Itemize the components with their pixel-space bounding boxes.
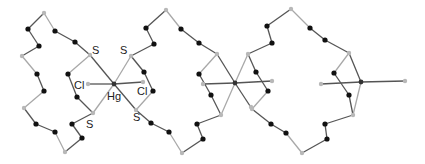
carbon-atom — [25, 26, 30, 31]
bond — [310, 28, 325, 40]
heteroatom — [351, 113, 355, 117]
carbon-atom — [264, 23, 269, 28]
bond — [182, 139, 203, 153]
bond — [199, 43, 217, 54]
bond — [349, 53, 361, 82]
bond — [44, 13, 55, 31]
carbon-atom — [196, 71, 201, 76]
carbon-atom — [52, 129, 57, 134]
bond — [146, 28, 154, 44]
heteroatom — [20, 54, 24, 58]
carbon-atom — [148, 120, 153, 125]
bond — [325, 40, 349, 53]
bond — [37, 74, 44, 91]
bond — [24, 91, 44, 108]
bond — [114, 56, 131, 84]
heteroatom — [22, 106, 26, 110]
bond — [22, 56, 37, 74]
mercury-atom — [233, 81, 238, 86]
bond — [199, 54, 217, 74]
bond — [361, 81, 405, 82]
bond — [334, 53, 349, 73]
carbon-atom — [200, 136, 205, 141]
carbon-atom — [151, 41, 156, 46]
bond — [235, 54, 248, 83]
bond — [349, 95, 353, 115]
heteroatom — [219, 113, 223, 117]
carbon-atom — [41, 88, 46, 93]
carbon-atom — [74, 94, 79, 99]
bond — [203, 83, 235, 84]
carbon-atom — [150, 88, 155, 93]
bond — [24, 108, 36, 124]
bond — [211, 95, 221, 115]
atom-label: Cl — [137, 85, 147, 97]
heteroatom — [215, 52, 219, 56]
heteroatom — [180, 151, 184, 155]
carbon-atom — [141, 69, 146, 74]
atom-label: S — [92, 44, 99, 56]
carbon-atom — [52, 28, 57, 33]
carbon-atom — [346, 92, 351, 97]
heteroatom — [300, 151, 304, 155]
bond — [291, 9, 310, 28]
carbon-atom — [324, 136, 329, 141]
bond — [77, 97, 93, 113]
carbon-atom — [265, 88, 270, 93]
heteroatom — [129, 54, 133, 58]
mercury-atom — [112, 82, 117, 87]
bond — [235, 81, 272, 83]
heteroatom — [86, 82, 90, 86]
carbon-atom — [307, 25, 312, 30]
carbon-atom — [166, 129, 171, 134]
bond — [131, 56, 144, 72]
heteroatom — [319, 82, 323, 86]
atom-label: S — [86, 118, 93, 130]
bond — [252, 91, 268, 109]
heteroatom — [289, 7, 293, 11]
bond — [181, 29, 199, 43]
heteroatom — [201, 82, 205, 86]
heteroatom — [63, 150, 67, 154]
bond — [28, 13, 44, 29]
bond — [325, 115, 353, 124]
bond — [36, 124, 55, 132]
bond — [235, 83, 252, 109]
bond — [267, 9, 291, 26]
heteroatom — [91, 111, 95, 115]
heteroatom — [42, 11, 46, 15]
bond — [353, 82, 361, 115]
carbon-atom — [65, 71, 70, 76]
carbon-atom — [178, 26, 183, 31]
molecular-diagram: SSClHgClSS — [0, 0, 425, 164]
bond — [334, 73, 349, 95]
carbon-atom — [34, 71, 39, 76]
carbon-atom — [36, 43, 41, 48]
carbon-atom — [33, 121, 38, 126]
bond — [28, 29, 39, 46]
bond — [197, 115, 221, 124]
bond — [302, 139, 327, 153]
carbon-atom — [322, 37, 327, 42]
bond — [146, 10, 166, 28]
bond — [217, 54, 235, 83]
bond — [131, 44, 154, 56]
structure-svg: SSClHgClSS — [0, 0, 425, 164]
bond — [248, 43, 272, 54]
atom-label: Cl — [74, 79, 84, 91]
mercury-atom — [359, 80, 364, 85]
carbon-atom — [196, 40, 201, 45]
bond — [55, 132, 65, 152]
bond — [151, 123, 169, 132]
bond — [114, 82, 143, 84]
carbon-atom — [269, 40, 274, 45]
heteroatom — [141, 80, 145, 84]
bond — [252, 109, 271, 124]
carbon-atom — [72, 39, 77, 44]
bond — [55, 31, 75, 42]
bond — [271, 124, 286, 133]
bond — [166, 10, 181, 29]
heteroatom — [347, 51, 351, 55]
heteroatom — [249, 105, 253, 109]
bond — [75, 42, 90, 55]
